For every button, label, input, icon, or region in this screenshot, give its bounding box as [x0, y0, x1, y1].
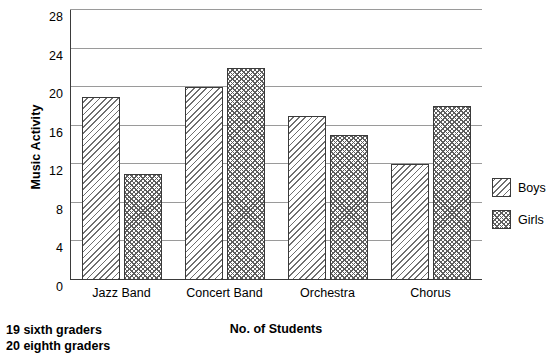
x-axis-title: No. of Students — [70, 322, 482, 336]
bar-girls-chorus — [433, 106, 471, 280]
bar-boys-chorus — [391, 164, 429, 280]
legend-label-girls: Girls — [518, 213, 544, 227]
plot-area: 0481216202428 — [70, 10, 482, 280]
bar-boys-concert-band — [185, 87, 223, 280]
x-tick-label: Orchestra — [276, 286, 379, 301]
x-tick-label: Concert Band — [173, 286, 276, 301]
bar-girls-concert-band — [227, 68, 265, 280]
x-tick-label: Jazz Band — [70, 286, 173, 301]
footnote-line-1: 19 sixth graders — [6, 322, 110, 338]
bar-group — [70, 10, 173, 280]
bars-layer — [70, 10, 482, 280]
footnote-line-2: 20 eighth graders — [6, 338, 110, 354]
bar-group — [173, 10, 276, 280]
footnote: 19 sixth graders 20 eighth graders — [6, 322, 110, 354]
legend-item-girls: Girls — [492, 210, 558, 229]
bar-girls-jazz-band — [124, 174, 162, 280]
bar-boys-orchestra — [288, 116, 326, 280]
bar-boys-jazz-band — [82, 97, 120, 280]
x-axis-line — [70, 279, 482, 281]
legend-label-boys: Boys — [518, 181, 546, 195]
y-axis-title: Music Activity — [29, 67, 43, 227]
bar-group — [276, 10, 379, 280]
legend-swatch-boys-icon — [492, 178, 511, 197]
legend: Boys Girls — [492, 178, 558, 242]
bar-girls-orchestra — [330, 135, 368, 280]
x-tick-label: Chorus — [379, 286, 482, 301]
y-axis-line — [70, 10, 71, 280]
bar-group — [379, 10, 482, 280]
legend-item-boys: Boys — [492, 178, 558, 197]
legend-swatch-girls-icon — [492, 210, 511, 229]
